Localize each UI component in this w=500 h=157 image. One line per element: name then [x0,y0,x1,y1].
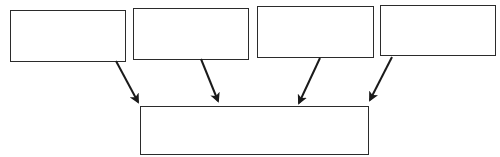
arrow-2-icon [201,59,218,101]
target-box [140,106,369,155]
arrow-1-icon [116,61,138,102]
source-box-1 [10,10,126,62]
source-box-4 [380,5,496,56]
arrow-4-icon [370,57,392,100]
arrow-3-icon [299,58,320,103]
diagram-canvas [0,0,500,157]
source-box-2 [133,8,249,60]
source-box-3 [257,6,374,58]
